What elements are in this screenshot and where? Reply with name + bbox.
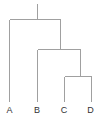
dendrogram: ABCD [0, 0, 99, 120]
leaf-label-C: C [61, 105, 68, 115]
leaf-label-D: D [87, 105, 94, 115]
leaf-label-B: B [34, 105, 40, 115]
dendrogram-figure: ABCD [0, 0, 99, 120]
leaf-label-A: A [6, 105, 12, 115]
